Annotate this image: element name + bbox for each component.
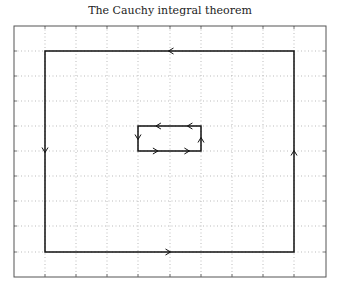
inner-contour <box>138 126 201 151</box>
contour-diagram <box>0 0 340 287</box>
